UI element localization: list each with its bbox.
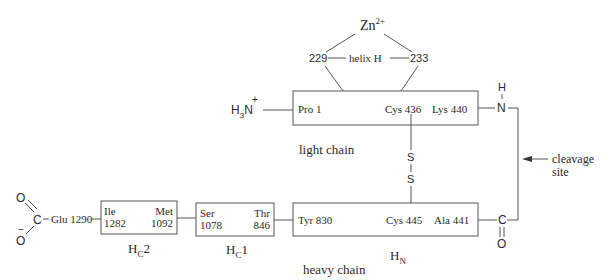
sulfur-2: S (407, 173, 414, 185)
sulfur-1: S (407, 151, 414, 163)
zinc-bond-left (326, 34, 355, 52)
cleavage-arrow-icon (522, 156, 532, 162)
carboxyl-charge: − (18, 224, 24, 235)
residue-ile: Ile (104, 205, 116, 217)
residue-pro1: Pro 1 (298, 103, 322, 115)
residue-233: 233 (410, 52, 428, 64)
carbonyl-carbon: C (498, 213, 507, 227)
carboxyl-oxygen-bottom: O (16, 234, 25, 248)
residue-tyr830: Tyr 830 (298, 214, 333, 226)
bond-229-chain (325, 66, 343, 91)
residue-229: 229 (309, 52, 327, 64)
hn-domain-label: HN (390, 248, 406, 266)
residue-1282: 1282 (104, 217, 126, 229)
residue-cys445: Cys 445 (386, 214, 423, 226)
light-chain-label: light chain (299, 142, 355, 157)
cleavage-label-line1: cleavage (552, 152, 594, 166)
helix-label: helix H (349, 52, 382, 64)
residue-glu1290: Glu 1290 (51, 213, 93, 225)
hc1-domain-label: HC1 (226, 242, 248, 260)
residue-1092: 1092 (151, 217, 173, 229)
cleavage-link: cleavage site (518, 108, 594, 220)
zinc-bond-right (384, 34, 412, 52)
n-terminus-charge: + (252, 94, 258, 105)
carboxyl-single (26, 226, 34, 234)
cleavage-label-line2: site (552, 165, 569, 179)
carboxyl-carbon: C (33, 213, 42, 227)
bond-233-chain (401, 66, 418, 91)
n-terminus: H3N (231, 103, 253, 120)
residue-ala441: Ala 441 (434, 214, 469, 226)
residue-1078: 1078 (200, 219, 223, 231)
carboxyl-oxygen-top: O (16, 191, 25, 205)
hc2-domain-label: HC2 (128, 241, 150, 259)
residue-thr: Thr (254, 207, 270, 219)
amide-hydrogen: H (498, 81, 506, 93)
residue-lys440: Lys 440 (432, 103, 468, 115)
heavy-chain-label: heavy chain (303, 262, 366, 277)
botulinum-toxin-diagram: Zn2+ 229 helix H 233 H3N + Pro 1 Cys 436… (0, 0, 609, 280)
residue-cys436: Cys 436 (385, 103, 422, 115)
disulfide-bridge: S S (407, 114, 414, 214)
residue-ser: Ser (200, 207, 215, 219)
carbonyl-oxygen: O (497, 237, 506, 251)
amide-nitrogen: N (497, 101, 506, 115)
zinc-coordination: Zn2+ 229 helix H 233 (309, 16, 428, 91)
heavy-chain: Tyr 830 Cys 445 Ala 441 HN heavy chain C… (16, 191, 518, 277)
residue-met: Met (155, 205, 173, 217)
residue-846: 846 (254, 219, 271, 231)
zinc-label: Zn2+ (360, 16, 385, 33)
light-chain: H3N + Pro 1 Cys 436 Lys 440 light chain … (231, 81, 518, 157)
